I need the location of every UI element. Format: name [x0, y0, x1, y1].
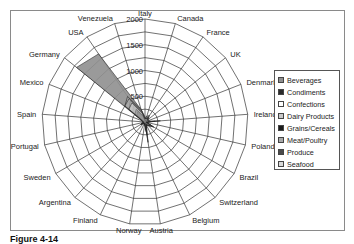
legend-swatch — [278, 89, 284, 95]
svg-text:Canada: Canada — [177, 14, 204, 23]
svg-text:Italy: Italy — [138, 9, 152, 18]
svg-text:France: France — [206, 28, 229, 37]
svg-text:Belgium: Belgium — [192, 216, 219, 225]
svg-text:1500: 1500 — [126, 41, 143, 50]
svg-text:Switzerland: Switzerland — [219, 198, 258, 207]
svg-text:Sweden: Sweden — [23, 173, 50, 182]
svg-text:Brazil: Brazil — [239, 173, 258, 182]
svg-text:Denmark: Denmark — [246, 78, 277, 87]
svg-text:1000: 1000 — [126, 67, 143, 76]
svg-text:Poland: Poland — [251, 142, 274, 151]
legend-swatch — [278, 101, 284, 107]
legend-item: Produce — [278, 146, 339, 158]
legend-item: Condiments — [278, 86, 339, 98]
chart-legend: Beverages Condiments Confections Dairy P… — [274, 70, 340, 170]
legend-swatch — [278, 77, 284, 83]
legend-swatch — [278, 161, 284, 167]
svg-text:Finland: Finland — [73, 216, 98, 225]
svg-text:Portugal: Portugal — [11, 142, 39, 151]
figure-caption: Figure 4-14 — [10, 234, 58, 244]
svg-text:Mexico: Mexico — [20, 78, 44, 87]
svg-text:UK: UK — [230, 50, 240, 59]
legend-item: Grains/Cereals — [278, 122, 339, 134]
svg-text:Norway: Norway — [116, 226, 142, 235]
svg-text:Austria: Austria — [150, 226, 174, 235]
legend-item: Dairy Products — [278, 110, 339, 122]
svg-text:USA: USA — [68, 28, 83, 37]
legend-item: Beverages — [278, 74, 339, 86]
legend-swatch — [278, 125, 284, 131]
legend-item: Meat/Poultry — [278, 134, 339, 146]
legend-swatch — [278, 137, 284, 143]
legend-swatch — [278, 113, 284, 119]
svg-text:500: 500 — [130, 92, 143, 101]
svg-text:Argentina: Argentina — [39, 198, 72, 207]
svg-text:Germany: Germany — [29, 50, 60, 59]
legend-item: Seafood — [278, 158, 339, 170]
svg-text:Spain: Spain — [17, 110, 36, 119]
legend-swatch — [278, 149, 284, 155]
legend-item: Confections — [278, 98, 339, 110]
svg-text:Venezuela: Venezuela — [78, 14, 114, 23]
